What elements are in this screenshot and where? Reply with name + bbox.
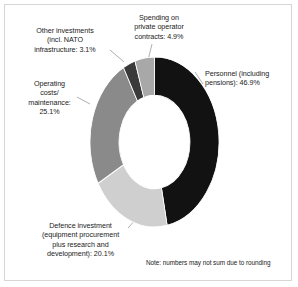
slice-label-defence-investment: Defence investment (equipment procuremen… — [18, 221, 143, 259]
donut-chart — [90, 57, 219, 227]
rounding-note: Note: numbers may not sum due to roundin… — [146, 259, 292, 267]
slice-label-private-operator-contracts: Spending on private operator contracts: … — [117, 13, 201, 41]
donut-svg — [90, 57, 219, 227]
slice-label-other-investments: Other investments (incl. NATO infrastruc… — [19, 26, 111, 54]
slice-label-personnel: Personnel (including pensions): 46.9% — [205, 69, 297, 88]
chart-page: Personnel (including pensions): 46.9% Sp… — [0, 0, 298, 287]
slice-label-operating-costs: Operating costs/ maintenance: 25.1% — [12, 79, 87, 117]
